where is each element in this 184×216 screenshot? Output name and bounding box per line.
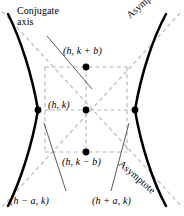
point-center	[83, 107, 90, 114]
hyperbola-left-branch	[8, 14, 38, 206]
point-co-vertex-bottom	[83, 149, 90, 156]
label-center: (h, k)	[48, 99, 70, 110]
leader-right-vertex	[111, 123, 129, 191]
hyperbola-figure: Conjugate axis Asymptote Asymptote (h, k…	[0, 0, 184, 216]
point-vertex-left	[35, 107, 42, 114]
point-vertex-right	[132, 107, 139, 114]
leader-conjugate-axis	[47, 36, 92, 89]
label-vertex-left: (h − a, k)	[10, 195, 49, 206]
label-co-vertex-top: (h, k + b)	[63, 45, 102, 56]
label-conjugate-axis: Conjugate axis	[17, 5, 77, 27]
label-co-vertex-bottom: (h, k − b)	[62, 156, 101, 167]
point-co-vertex-top	[83, 64, 90, 71]
hyperbola-graphic	[0, 0, 184, 216]
label-vertex-right: (h + a, k)	[92, 195, 131, 206]
